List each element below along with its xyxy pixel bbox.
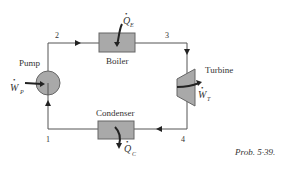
flow-arrows <box>45 40 190 132</box>
condenser-heat-subscript: C <box>132 151 137 157</box>
figure-caption: Prob. 5·39. <box>234 147 275 157</box>
state-4-label: 4 <box>181 135 185 144</box>
flow-arrow-4-left <box>156 126 162 132</box>
pump-work-subscript: P <box>19 89 24 95</box>
state-3-label: 3 <box>165 31 169 40</box>
boiler-heat-subscript: E <box>129 22 134 28</box>
state-1-label: 1 <box>46 135 50 144</box>
state-2-label: 2 <box>55 31 59 40</box>
pump-work-arrow-icon <box>25 83 42 84</box>
flow-arrow-2-to-boiler <box>75 40 81 46</box>
boiler: Boiler Q • E <box>99 10 135 66</box>
flow-arrow-3-down <box>184 49 190 55</box>
pump-label: Pump <box>19 58 41 68</box>
turbine-label: Turbine <box>205 65 233 75</box>
condenser-label: Condenser <box>96 108 135 118</box>
pump: Pump W • P <box>10 58 60 95</box>
turbine-work-subscript: T <box>207 96 211 102</box>
condenser: Condenser Q • C <box>96 108 137 157</box>
turbine: Turbine W • T <box>177 65 233 106</box>
flow-arrow-1-up <box>45 100 51 106</box>
boiler-label: Boiler <box>106 56 129 66</box>
rankine-cycle-diagram: Boiler Q • E Pump W • P Turbine W • T Co… <box>0 0 304 171</box>
